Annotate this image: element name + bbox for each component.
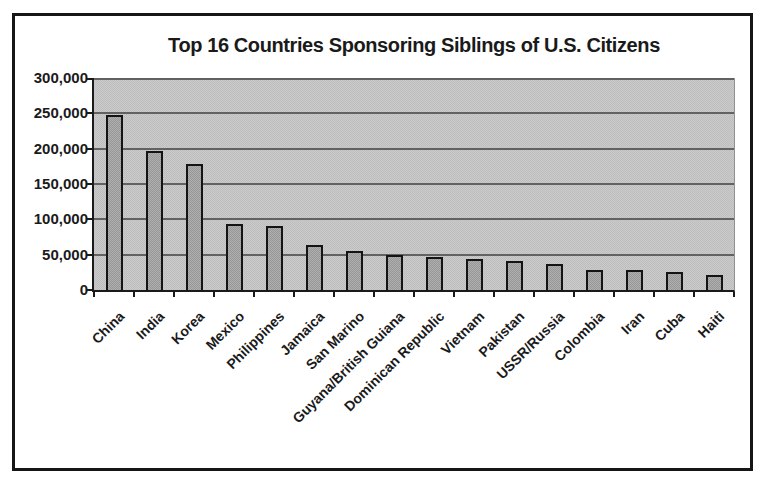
x-axis-tick — [493, 292, 495, 297]
chart-frame: Top 16 Countries Sponsoring Siblings of … — [12, 13, 753, 471]
y-axis-tick — [86, 289, 92, 291]
bar — [546, 264, 563, 290]
bar — [466, 259, 483, 290]
y-axis-label: 0 — [12, 281, 88, 299]
x-axis-tick — [693, 292, 695, 297]
x-axis-tick — [733, 292, 735, 297]
x-axis-tick — [613, 292, 615, 297]
y-axis-tick — [86, 218, 92, 220]
y-axis-tick — [86, 78, 92, 80]
y-axis-label: 50,000 — [12, 246, 88, 264]
bar — [346, 251, 363, 290]
x-axis-tick — [533, 292, 535, 297]
gridline — [94, 112, 734, 114]
y-axis-label: 250,000 — [12, 104, 88, 122]
bar — [626, 270, 643, 290]
x-axis-tick — [573, 292, 575, 297]
bar — [146, 151, 163, 290]
bar — [586, 270, 603, 290]
chart-title: Top 16 Countries Sponsoring Siblings of … — [114, 34, 714, 57]
gridline — [94, 78, 734, 80]
bar — [386, 255, 403, 290]
y-axis-tick — [86, 254, 92, 256]
y-axis-label: 150,000 — [12, 175, 88, 193]
bar — [186, 164, 203, 290]
x-axis-tick — [333, 292, 335, 297]
y-axis-tick — [86, 183, 92, 185]
x-axis-tick — [93, 292, 95, 297]
x-axis-tick — [173, 292, 175, 297]
chart-image: Top 16 Countries Sponsoring Siblings of … — [0, 0, 761, 482]
x-axis-tick — [133, 292, 135, 297]
x-axis-tick — [253, 292, 255, 297]
bar — [666, 272, 683, 290]
x-axis-tick — [373, 292, 375, 297]
bar — [266, 226, 283, 290]
gridline — [94, 148, 734, 150]
bar — [426, 257, 443, 290]
x-axis-tick — [653, 292, 655, 297]
x-axis-tick — [213, 292, 215, 297]
bar — [226, 224, 243, 290]
y-axis-label: 200,000 — [12, 140, 88, 158]
bar — [106, 115, 123, 290]
x-axis-tick — [293, 292, 295, 297]
bar — [706, 275, 723, 290]
y-axis-label: 300,000 — [12, 69, 88, 87]
plot-area: 050,000100,000150,000200,000250,000300,0… — [92, 78, 735, 292]
x-axis-tick — [413, 292, 415, 297]
y-axis-label: 100,000 — [12, 210, 88, 228]
bar — [506, 261, 523, 290]
bar — [306, 245, 323, 290]
x-axis-tick — [453, 292, 455, 297]
y-axis-tick — [86, 148, 92, 150]
y-axis-tick — [86, 112, 92, 114]
